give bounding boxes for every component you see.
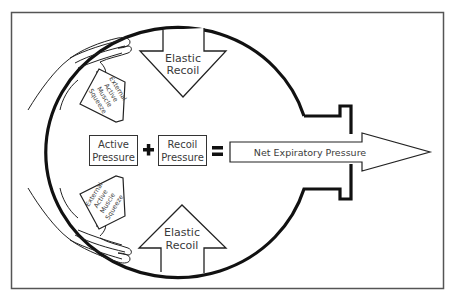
plus-icon: [143, 144, 154, 156]
external-squeeze-tag-top: External Active Muscle Squeeze: [80, 69, 129, 122]
recoil-pressure-box: Recoil Pressure: [159, 136, 207, 166]
recoil-pressure-line1: Recoil: [168, 139, 198, 150]
elastic-recoil-bottom-line1: Elastic: [164, 226, 200, 239]
active-pressure-line1: Active: [98, 139, 129, 150]
equals-icon: [212, 146, 223, 156]
recoil-pressure-line2: Pressure: [161, 152, 204, 163]
net-expiratory-pressure-arrow: Net Expiratory Pressure: [230, 133, 430, 171]
elastic-recoil-bottom-line2: Recoil: [166, 239, 199, 252]
elastic-recoil-arrow-bottom: Elastic Recoil: [139, 205, 226, 273]
active-pressure-line2: Pressure: [92, 152, 135, 163]
elastic-recoil-arrow-top: Elastic Recoil: [140, 28, 226, 97]
net-expiratory-pressure-label: Net Expiratory Pressure: [254, 147, 367, 158]
active-pressure-box: Active Pressure: [90, 136, 138, 166]
expiratory-pressure-diagram: Elastic Recoil Elastic Recoil External A…: [0, 0, 452, 296]
external-squeeze-tag-bottom: External Active Muscle Squeeze: [80, 176, 125, 229]
elastic-recoil-top-line2: Recoil: [167, 64, 200, 77]
